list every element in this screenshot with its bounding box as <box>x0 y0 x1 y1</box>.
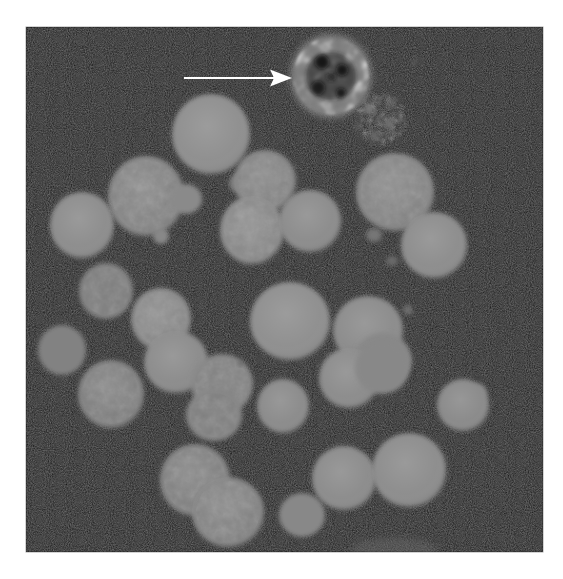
cell-b6 <box>366 228 382 242</box>
cell-c1 <box>79 263 133 319</box>
cell-e6 <box>372 433 446 507</box>
cell-e2 <box>192 477 264 547</box>
cell-b2 <box>220 196 284 264</box>
cell-c5 <box>38 325 86 375</box>
cell-d3 <box>186 389 242 441</box>
figure-root: micrograph fluorescence-microscopy 38 1 … <box>0 0 563 579</box>
cell-d6 <box>355 342 409 394</box>
cell-c4 <box>250 282 330 360</box>
cell-a1 <box>172 94 250 174</box>
cell-a4 <box>170 184 202 214</box>
cell-e5 <box>312 446 376 510</box>
micrograph-image <box>0 0 563 579</box>
cell-f2 <box>386 256 398 266</box>
cell-e3 <box>279 493 325 537</box>
cell-f1 <box>403 305 413 315</box>
cell-d1 <box>78 360 144 428</box>
cell-b3 <box>279 190 341 252</box>
cell-d8 <box>437 379 489 431</box>
cell-b5 <box>401 212 467 278</box>
cell-a5 <box>153 228 169 244</box>
cell-a3 <box>50 192 114 258</box>
cell-d4 <box>257 379 309 433</box>
